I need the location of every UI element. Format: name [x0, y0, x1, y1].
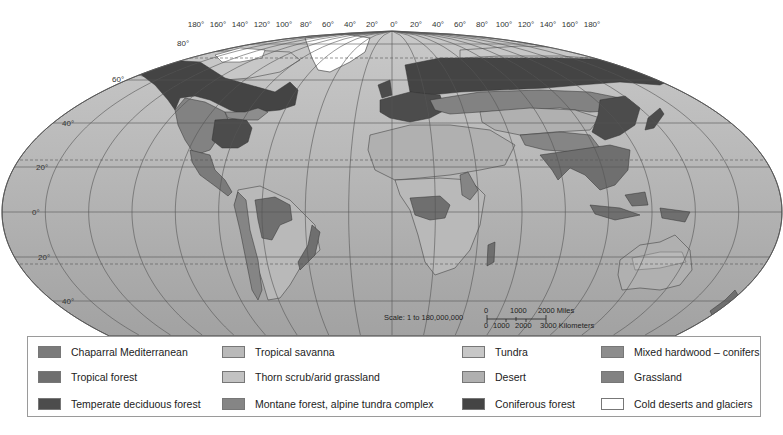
longitude-label: 0°: [390, 20, 398, 29]
latitude-label: 40°: [62, 297, 74, 306]
longitude-label: 140°: [232, 20, 249, 29]
longitude-label: 100°: [496, 20, 513, 29]
longitude-label: 80°: [476, 20, 488, 29]
region-madagascar: [487, 242, 495, 266]
legend-label: Montane forest, alpine tundra complex: [255, 398, 434, 410]
longitude-label: 60°: [322, 20, 334, 29]
scale-km-2000: 2000: [515, 321, 532, 330]
world-biome-map: 180°160°140°120°100°80°60°40°20°0°20°40°…: [0, 0, 783, 340]
legend-swatch: [222, 371, 245, 383]
longitude-label: 120°: [518, 20, 535, 29]
latitude-label: 20°: [38, 253, 50, 262]
scale-miles-1000: 1000: [510, 306, 527, 315]
latitude-label: 20°: [36, 163, 48, 172]
legend-label: Mixed hardwood – conifers: [634, 346, 759, 358]
legend-item: Grassland: [601, 370, 682, 384]
longitude-label: 120°: [254, 20, 271, 29]
longitude-labels: 180°160°140°120°100°80°60°40°20°0°20°40°…: [188, 20, 601, 29]
legend-item: Mixed hardwood – conifers: [601, 345, 759, 359]
legend-label: Tundra: [495, 346, 528, 358]
legend-swatch: [462, 346, 485, 358]
legend-label: Grassland: [634, 371, 682, 383]
legend-swatch: [222, 398, 245, 410]
legend-swatch: [38, 371, 61, 383]
scale-km-1000: 1000: [493, 321, 510, 330]
longitude-label: 60°: [454, 20, 466, 29]
longitude-label: 180°: [188, 20, 205, 29]
latitude-label: 40°: [62, 119, 74, 128]
legend-item: Tropical savanna: [222, 345, 335, 359]
legend-label: Thorn scrub/arid grassland: [255, 371, 380, 383]
legend-item: Chaparral Mediterranean: [38, 345, 188, 359]
longitude-label: 100°: [276, 20, 293, 29]
legend-item: Cold deserts and glaciers: [601, 397, 752, 411]
scale-miles-0: 0: [484, 306, 488, 315]
latitude-label: 80°: [177, 39, 189, 48]
longitude-label: 80°: [300, 20, 312, 29]
legend-label: Coniferous forest: [495, 398, 575, 410]
legend-label: Temperate deciduous forest: [71, 398, 201, 410]
legend-item: Tundra: [462, 345, 528, 359]
longitude-label: 40°: [432, 20, 444, 29]
latitude-label: 60°: [112, 75, 124, 84]
legend-label: Tropical forest: [71, 371, 137, 383]
scale-miles-2000: 2000 Miles: [538, 306, 575, 315]
scale-ratio-text: Scale: 1 to 180,000,000: [384, 313, 463, 322]
legend-item: Coniferous forest: [462, 397, 575, 411]
legend-item: Montane forest, alpine tundra complex: [222, 397, 434, 411]
legend-item: Thorn scrub/arid grassland: [222, 370, 380, 384]
legend-label: Chaparral Mediterranean: [71, 346, 188, 358]
legend-label: Desert: [495, 371, 526, 383]
legend-label: Tropical savanna: [255, 346, 335, 358]
legend-swatch: [601, 346, 624, 358]
longitude-label: 160°: [562, 20, 579, 29]
legend-swatch: [38, 346, 61, 358]
latitude-label: 0°: [32, 208, 40, 217]
longitude-label: 20°: [366, 20, 378, 29]
longitude-label: 20°: [410, 20, 422, 29]
legend: Chaparral MediterraneanTropical forestTe…: [27, 336, 761, 417]
longitude-label: 140°: [540, 20, 557, 29]
legend-item: Temperate deciduous forest: [38, 397, 201, 411]
scale-km-0: 0: [484, 321, 488, 330]
longitude-label: 180°: [584, 20, 601, 29]
map-canvas: 180°160°140°120°100°80°60°40°20°0°20°40°…: [0, 0, 783, 340]
legend-swatch: [222, 346, 245, 358]
legend-swatch: [601, 371, 624, 383]
legend-swatch: [462, 398, 485, 410]
scale-km-3000: 3000 Kilometers: [540, 321, 594, 330]
legend-item: Tropical forest: [38, 370, 137, 384]
legend-item: Desert: [462, 370, 526, 384]
legend-swatch: [38, 398, 61, 410]
legend-swatch: [462, 371, 485, 383]
legend-label: Cold deserts and glaciers: [634, 398, 752, 410]
legend-swatch: [601, 398, 624, 410]
longitude-label: 160°: [210, 20, 227, 29]
longitude-label: 40°: [344, 20, 356, 29]
